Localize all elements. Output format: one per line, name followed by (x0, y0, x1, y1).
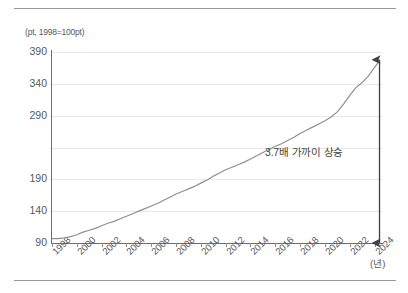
data-series-layer (0, 0, 408, 293)
growth-callout-label: 3.7배 가까이 상승 (265, 144, 343, 159)
chart-figure: (pt, 1998=100pt) 39034029019014090 19982… (0, 0, 408, 293)
